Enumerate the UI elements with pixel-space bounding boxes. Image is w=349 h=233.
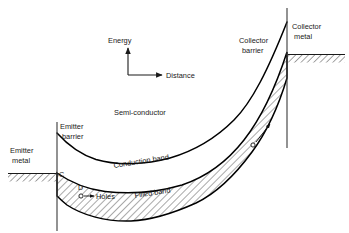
axes-key [128, 48, 162, 75]
band-diagram-svg: Energy Distance Semi-conductor Emitter m… [0, 0, 349, 233]
collector-barrier-label-line2: barrier [242, 46, 264, 55]
collector-metal-label-line2: metal [294, 32, 312, 41]
emitter-metal-hatch [8, 174, 57, 182]
collector-metal-label-line1: Collector [292, 22, 322, 31]
conduction-band-label: Conduction band [113, 152, 170, 170]
semiconductor-label: Semi-conductor [114, 108, 166, 117]
collector-metal-hatch [288, 55, 345, 63]
point-c-label: C [59, 170, 64, 179]
point-d-label: D [78, 183, 83, 192]
distance-label: Distance [166, 71, 195, 80]
figure-root: Energy Distance Semi-conductor Emitter m… [0, 0, 349, 233]
emitter-barrier-label-line2: barrier [62, 132, 84, 141]
emitter-metal-label-line2: metal [12, 156, 30, 165]
energy-label: Energy [108, 36, 132, 45]
holes-label: Holes [96, 192, 115, 201]
collector-barrier-label-line1: Collector [239, 36, 269, 45]
emitter-barrier-label-line1: Emitter [60, 122, 84, 131]
emitter-metal-label-line1: Emitter [10, 146, 34, 155]
